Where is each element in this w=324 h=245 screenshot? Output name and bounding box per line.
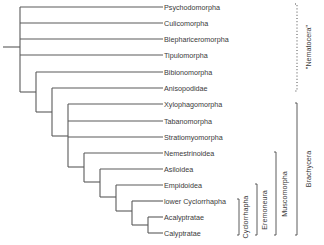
taxon-label: lower Cyclorrhapha <box>164 197 226 206</box>
clade-label-eremoneura: Eremoneura <box>260 190 269 230</box>
phylogenetic-tree: Psychodomorpha Culicomorpha Blepharicero… <box>0 0 324 245</box>
taxon-label: Xylophagomorpha <box>164 100 222 109</box>
brachycera-bracket <box>295 103 297 235</box>
clade-label-brachycera: Brachycera <box>304 151 313 187</box>
nematocera-bracket <box>295 4 297 91</box>
taxon-label: Asiloidea <box>164 165 193 174</box>
clade-label-muscomorpha: Muscomorpha <box>280 171 289 217</box>
taxon-label: Blephariceromorpha <box>164 35 229 44</box>
taxon-label: Psychodomorpha <box>164 3 220 12</box>
eremoneura-bracket <box>255 184 257 235</box>
taxon-label: Tipulomorpha <box>164 51 208 60</box>
taxon-label: Empidoidea <box>164 181 202 190</box>
taxon-label: Calyptratae <box>164 229 201 238</box>
taxon-label: Stratiomyomorpha <box>164 133 223 142</box>
clade-label-cyclorrhapha: Cyclorrhapha <box>241 196 250 239</box>
taxon-label: Bibionomorpha <box>164 68 212 77</box>
muscomorpha-bracket <box>274 152 276 235</box>
clade-label-nematocera: "Nematocera" <box>304 24 313 69</box>
taxon-label: Acalyptratae <box>164 213 204 222</box>
taxon-label: Tabanomorpha <box>164 117 212 126</box>
cyclorrhapha-bracket <box>237 199 239 235</box>
taxon-label: Anisopodidae <box>164 84 208 93</box>
taxon-label: Culicomorpha <box>164 19 208 28</box>
taxon-label: Nemestrinoidea <box>164 149 214 158</box>
